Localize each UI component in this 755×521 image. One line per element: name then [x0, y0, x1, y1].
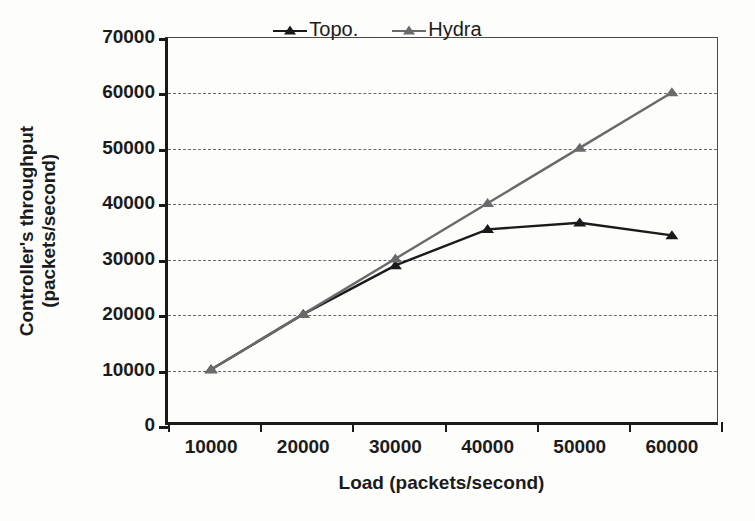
x-axis-tick-label: 30000: [369, 436, 422, 458]
x-axis-tick-label: 50000: [553, 436, 606, 458]
x-axis-tick-label: 60000: [645, 436, 698, 458]
x-axis-title: Load (packets/second): [165, 472, 718, 494]
y-axis-tick-label: 50000: [65, 137, 155, 159]
x-axis-tick-label: 40000: [461, 436, 514, 458]
y-axis-tick-label: 10000: [65, 359, 155, 381]
legend-marker-icon: [392, 22, 426, 38]
series-line: [211, 92, 672, 369]
x-axis-tick-labels: 100002000030000400005000060000: [165, 436, 718, 464]
series-marker: [665, 87, 678, 96]
y-axis-tick-label: 40000: [65, 192, 155, 214]
y-axis-tick-label: 30000: [65, 248, 155, 270]
y-axis-tick-label: 70000: [65, 26, 155, 48]
x-axis-tick-label: 20000: [277, 436, 330, 458]
y-axis-tick-labels: 010000200003000040000500006000070000: [55, 0, 155, 521]
series-line: [211, 223, 672, 370]
legend-marker-icon: [273, 22, 307, 38]
chart-figure: Controller's throughput (packets/second)…: [0, 0, 755, 521]
y-axis-tick-mark: [159, 426, 168, 429]
x-axis-tick-label: 10000: [185, 436, 238, 458]
data-series-layer: [165, 37, 718, 425]
y-axis-title-line-1: Controller's throughput: [16, 126, 38, 336]
y-axis-tick-label: 60000: [65, 81, 155, 103]
x-axis-tick-mark: [721, 422, 723, 432]
y-axis-tick-label: 0: [65, 414, 155, 436]
y-axis-tick-label: 20000: [65, 303, 155, 325]
